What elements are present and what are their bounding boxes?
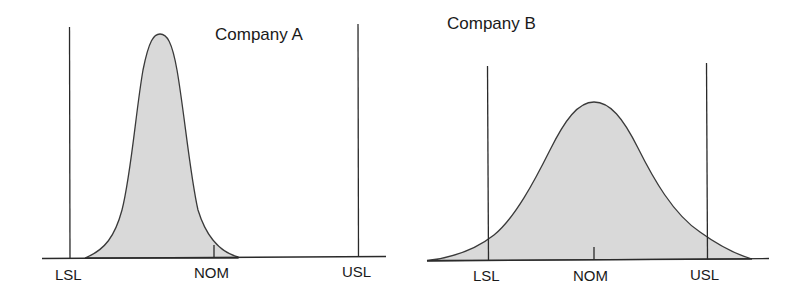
figure: Company A LSL NOM USL Company B LSL NOM … bbox=[0, 0, 799, 304]
chart-company-a: Company A LSL NOM USL bbox=[42, 24, 386, 283]
usl-label-b: USL bbox=[690, 266, 719, 283]
nom-label-a: NOM bbox=[194, 264, 229, 281]
lsl-line-b bbox=[488, 66, 489, 261]
chart-title-a: Company A bbox=[215, 25, 304, 44]
chart-company-b: Company B LSL NOM USL bbox=[427, 14, 769, 284]
distribution-curve-b bbox=[427, 102, 752, 261]
lsl-label-a: LSL bbox=[55, 266, 82, 283]
lsl-line-a bbox=[70, 27, 71, 258]
chart-title-b: Company B bbox=[447, 14, 536, 33]
nom-label-b: NOM bbox=[573, 267, 608, 284]
usl-line-a bbox=[358, 24, 359, 257]
distribution-curve-a bbox=[85, 34, 238, 258]
usl-line-b bbox=[707, 63, 708, 259]
usl-label-a: USL bbox=[342, 263, 371, 280]
lsl-label-b: LSL bbox=[473, 267, 500, 284]
